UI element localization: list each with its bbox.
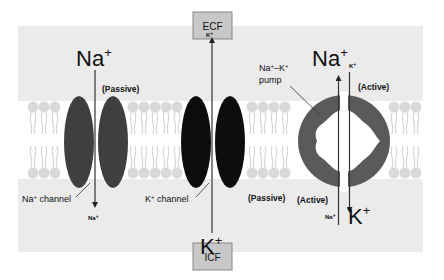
pump-mode-bottom: (Active)	[297, 195, 328, 205]
pump-mode-top: (Active)	[358, 82, 389, 92]
pump-channel-gap	[340, 92, 348, 192]
na-channel-subunit-right	[98, 96, 128, 188]
k-channel-subunit-right	[215, 96, 245, 188]
pump-label-line2: pump	[259, 75, 282, 85]
k-channel-mode: (Passive)	[248, 193, 285, 203]
k-channel-subunit-left	[181, 96, 211, 188]
pump-label-line1: Na+–K+	[259, 63, 289, 73]
na-channel-label: Na+ channel	[22, 194, 71, 204]
na-channel-subunit-left	[64, 96, 94, 188]
na-channel-mode: (Passive)	[102, 84, 139, 94]
membrane-transport-diagram: ECF ICF Na+ (Passive) Na+ Na+ channel K+…	[0, 0, 444, 280]
